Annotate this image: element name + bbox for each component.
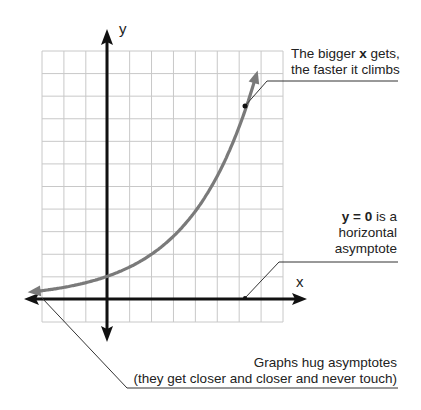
asymptote-callout-line [245, 262, 398, 298]
growth-callout-dot [243, 104, 248, 109]
growth-callout-line [245, 81, 398, 106]
hug-callout-text: Graphs hug asymptotes (they get closer a… [134, 355, 398, 386]
svg-text:The bigger x gets,: The bigger x gets, [291, 46, 400, 61]
x-axis [24, 293, 307, 305]
svg-text:Graphs hug asymptotes: Graphs hug asymptotes [254, 355, 398, 370]
asymptote-callout-dot [243, 296, 247, 300]
curve-left-arrow-icon [28, 285, 42, 296]
svg-text:asymptote: asymptote [335, 241, 397, 256]
svg-text:y = 0 is a: y = 0 is a [342, 209, 398, 224]
svg-text:the faster it climbs: the faster it climbs [291, 62, 400, 77]
x-axis-label: x [296, 273, 304, 290]
y-axis [101, 29, 113, 342]
asymptote-callout-text: y = 0 is a horizontal asymptote [335, 209, 398, 256]
svg-text:(they get closer and closer an: (they get closer and closer and never to… [134, 371, 397, 386]
y-axis-label: y [119, 20, 127, 37]
svg-text:horizontal: horizontal [338, 225, 397, 240]
exponential-graph-diagram: y x The bigger x gets, the faster it cli… [0, 0, 421, 410]
grid [42, 51, 283, 322]
curve-top-arrow-icon [249, 71, 260, 85]
growth-callout-text: The bigger x gets, the faster it climbs [291, 46, 400, 77]
exponential-curve [34, 76, 256, 291]
